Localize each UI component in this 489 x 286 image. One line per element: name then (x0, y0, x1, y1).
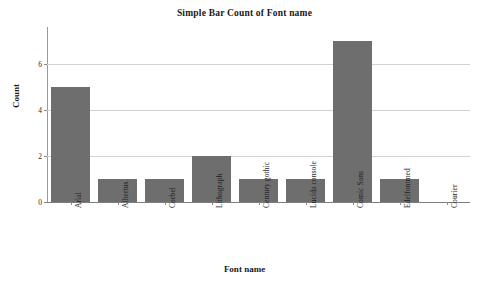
bar[interactable] (380, 179, 419, 202)
bar-chart: Simple Bar Count of Font name Count 0246… (0, 0, 489, 286)
x-axis-title: Font name (0, 264, 489, 274)
x-tick-mark (71, 202, 72, 205)
y-axis-title: Count (11, 94, 21, 108)
x-axis-label: Arial (74, 192, 83, 208)
y-tick-mark (44, 202, 47, 203)
y-tick-label: 2 (38, 151, 42, 160)
bar[interactable] (286, 179, 325, 202)
x-axis-label: Century gothic (262, 162, 271, 208)
bar[interactable] (98, 179, 137, 202)
x-tick-mark (306, 202, 307, 205)
bar[interactable] (239, 179, 278, 202)
y-tick-label: 6 (38, 59, 42, 68)
x-tick-mark (447, 202, 448, 205)
bar-slot (376, 27, 423, 202)
bar[interactable] (145, 179, 184, 202)
x-tick-mark (400, 202, 401, 205)
bar-slot (329, 27, 376, 202)
bar-slot (188, 27, 235, 202)
bar-slot (282, 27, 329, 202)
y-tick-label: 4 (38, 105, 42, 114)
x-axis-label: Lucida console (309, 161, 318, 208)
x-axis-label: Courier (450, 184, 459, 208)
x-axis-label: Albertus (121, 181, 130, 208)
x-axis-label: Lithograph (215, 174, 224, 208)
bar-slot (423, 27, 470, 202)
bar[interactable] (333, 41, 372, 202)
x-axis-label: Corbel (168, 187, 177, 208)
bar[interactable] (192, 156, 231, 202)
bar-slot (141, 27, 188, 202)
x-axis-label: Edelfontmed (403, 168, 412, 208)
bar[interactable] (51, 87, 90, 202)
bar-slot (47, 27, 94, 202)
x-tick-mark (118, 202, 119, 205)
x-tick-mark (212, 202, 213, 205)
x-axis-label: Comic Sans (356, 171, 365, 208)
x-tick-mark (353, 202, 354, 205)
bar-slot (94, 27, 141, 202)
chart-title: Simple Bar Count of Font name (0, 8, 489, 18)
y-tick-label: 0 (38, 198, 42, 207)
x-tick-mark (165, 202, 166, 205)
bar-slot (235, 27, 282, 202)
x-tick-mark (259, 202, 260, 205)
